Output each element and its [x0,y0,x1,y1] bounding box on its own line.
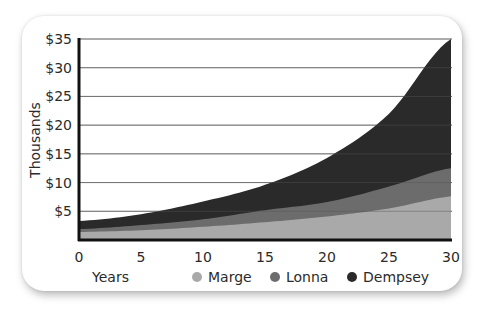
x-tick-label: 15 [256,249,274,265]
x-tick-label: 5 [137,249,146,265]
legend-label-marge: Marge [208,269,252,285]
x-tick-label: 10 [194,249,212,265]
y-tick-label: $10 [45,175,72,191]
y-tick-label: $5 [54,203,72,219]
x-tick-labels: 051015202530 [75,249,460,265]
legend: Marge Lonna Dempsey [192,269,429,285]
y-tick-label: $35 [45,31,72,47]
legend-marker-marge [192,272,202,282]
legend-marker-dempsey [347,272,357,282]
y-axis-title: Thousands [27,102,43,179]
x-tick-label: 30 [442,249,460,265]
stacked-area-chart: $5$10$15$20$25$30$35 051015202530 Thousa… [0,0,482,310]
y-tick-labels: $5$10$15$20$25$30$35 [45,31,72,219]
y-tick-label: $25 [45,88,72,104]
y-tick-label: $30 [45,60,72,76]
legend-marker-lonna [270,272,280,282]
legend-label-dempsey: Dempsey [363,269,429,285]
x-tick-label: 20 [318,249,336,265]
x-axis-title: Years [91,269,129,285]
area-series [79,39,452,240]
x-tick-label: 25 [380,249,398,265]
x-tick-label: 0 [75,249,84,265]
legend-label-lonna: Lonna [286,269,328,285]
y-tick-label: $15 [45,146,72,162]
y-tick-label: $20 [45,117,72,133]
